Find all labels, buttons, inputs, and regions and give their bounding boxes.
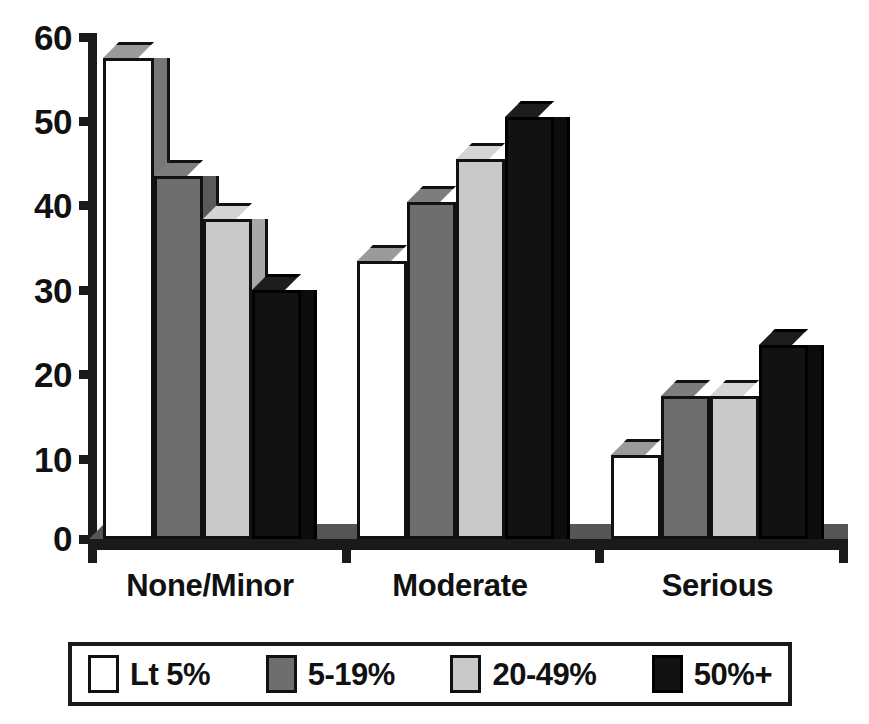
y-tick-label-10: 10 <box>8 442 72 477</box>
legend-swatch-black-icon <box>652 655 683 693</box>
x-category-label-none-minor: None/Minor <box>85 570 335 601</box>
y-tick-label-60: 60 <box>8 20 72 55</box>
legend-label-50plus: 50%+ <box>694 659 772 690</box>
bar-moderate-20-49 <box>456 159 505 539</box>
y-tick-label-0: 0 <box>8 521 72 556</box>
legend-swatch-dark-gray-icon <box>266 655 297 693</box>
y-tick-mark-20 <box>79 370 97 379</box>
legend-entry-20-49: 20-49% <box>450 655 596 693</box>
bar-moderate-50plus <box>505 117 554 539</box>
x-category-label-serious: Serious <box>595 570 840 601</box>
legend-entry-lt5: Lt 5% <box>88 655 210 693</box>
bar-moderate-5-19 <box>407 202 456 539</box>
legend-entry-50plus: 50%+ <box>652 655 772 693</box>
bar-none-minor-lt5 <box>103 58 154 539</box>
y-tick-label-30: 30 <box>8 273 72 308</box>
legend-label-5-19: 5-19% <box>308 659 395 690</box>
legend-label-lt5: Lt 5% <box>130 659 210 690</box>
y-tick-mark-40 <box>79 201 97 210</box>
bar-none-minor-50plus <box>252 290 301 539</box>
x-tick-mark-end <box>839 543 848 563</box>
x-tick-mark-1 <box>342 543 351 563</box>
legend-swatch-white-icon <box>88 655 119 693</box>
x-tick-mark-start <box>88 543 97 563</box>
bar-serious-5-19 <box>661 396 710 539</box>
legend-label-20-49: 20-49% <box>492 659 596 690</box>
bar-none-minor-20-49 <box>203 219 252 539</box>
y-tick-mark-60 <box>79 33 97 42</box>
bar-serious-lt5 <box>611 455 661 539</box>
bar-serious-20-49 <box>710 396 759 539</box>
legend-swatch-light-gray-icon <box>450 655 481 693</box>
bar-chart: 60 50 40 30 20 10 0 <box>0 0 869 724</box>
bar-none-minor-5-19 <box>154 176 203 539</box>
legend: Lt 5% 5-19% 20-49% 50%+ <box>68 642 792 706</box>
bar-moderate-lt5 <box>357 261 407 539</box>
y-tick-label-40: 40 <box>8 188 72 223</box>
y-tick-label-50: 50 <box>8 104 72 139</box>
chart-baseline <box>88 539 848 550</box>
y-tick-mark-30 <box>79 286 97 295</box>
bar-serious-50plus <box>759 345 808 539</box>
y-tick-mark-50 <box>79 117 97 126</box>
legend-entry-5-19: 5-19% <box>266 655 395 693</box>
x-category-label-moderate: Moderate <box>340 570 580 601</box>
y-tick-label-20: 20 <box>8 357 72 392</box>
y-tick-mark-10 <box>79 455 97 464</box>
x-tick-mark-2 <box>595 543 604 563</box>
